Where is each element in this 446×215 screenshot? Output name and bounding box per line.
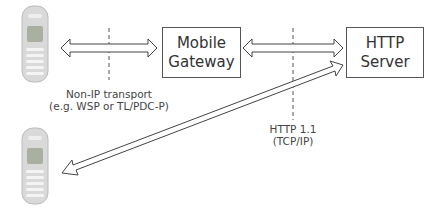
http-protocol-label: HTTP 1.1 (TCP/IP): [262, 123, 324, 147]
arrow-phone-to-gateway: [61, 39, 157, 57]
node-label-line2: Gateway: [168, 53, 234, 72]
http-server-node: HTTP Server: [346, 27, 424, 78]
non-ip-transport-label: Non-IP transport (e.g. WSP or TL/PDC-P): [48, 88, 170, 112]
label-line2: (TCP/IP): [262, 135, 324, 147]
node-label-line1: Mobile: [177, 34, 226, 53]
arrow-phone-to-server: [62, 61, 343, 175]
node-label-line1: HTTP: [366, 34, 404, 53]
mobile-gateway-node: Mobile Gateway: [162, 27, 241, 78]
arrow-gateway-to-server: [243, 39, 343, 57]
mobile-phone-icon: [22, 6, 48, 82]
mobile-phone-icon: [22, 128, 48, 204]
label-line2: (e.g. WSP or TL/PDC-P): [48, 100, 170, 112]
node-label-line2: Server: [360, 53, 409, 72]
diagram-canvas: Mobile Gateway HTTP Server Non-IP transp…: [0, 0, 446, 215]
label-line1: HTTP 1.1: [262, 123, 324, 135]
label-line1: Non-IP transport: [48, 88, 170, 100]
